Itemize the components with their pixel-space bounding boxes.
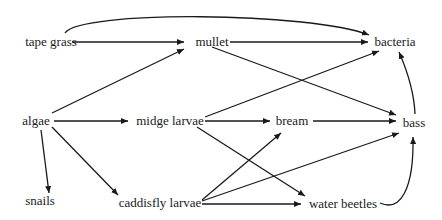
node-bacteria: bacteria [374,35,415,49]
edge-bass-to-bacteria [399,52,415,114]
edge-caddisfly-larvae-to-bass [202,133,399,201]
edge-mullet-to-bass [212,47,396,115]
node-algae: algae [22,114,49,128]
edge-algae-to-caddisfly-larvae [52,127,118,195]
edge-midge-larvae-to-bacteria [205,51,379,117]
edges-layer [0,0,442,220]
node-bass: bass [403,116,425,130]
node-mullet: mullet [195,35,228,49]
edge-caddisfly-larvae-to-bream [202,133,281,200]
node-bream: bream [276,114,308,128]
node-water-beetles: water beetles [309,197,377,211]
food-web-diagram: tape grass mullet bacteria algae midge l… [0,0,442,220]
node-midge-larvae: midge larvae [136,114,204,128]
node-tape-grass: tape grass [25,35,77,49]
edge-tape-grass-to-bacteria [65,17,369,35]
edge-algae-to-snails [41,130,49,193]
edge-algae-to-mullet [52,49,184,113]
node-caddisfly-larvae: caddisfly larvae [119,196,202,210]
edge-midge-larvae-to-water-beetles [197,127,305,196]
node-snails: snails [25,194,55,208]
edge-water-beetles-to-bass [380,137,413,205]
